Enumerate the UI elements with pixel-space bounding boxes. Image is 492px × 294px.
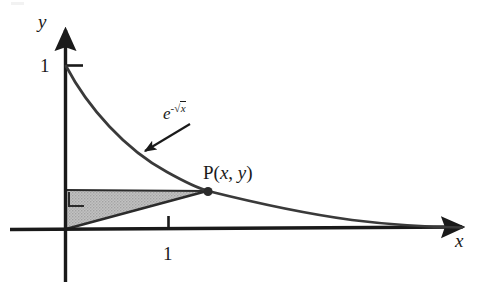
point-name: P	[203, 162, 214, 183]
curve-label-arrow	[145, 124, 190, 151]
x-axis	[10, 227, 462, 230]
curve-equation-label: e-√x	[163, 103, 186, 122]
x-tick-label-one: 1	[163, 244, 173, 263]
y-tick-label-one: 1	[40, 56, 50, 75]
point-comma: ,	[228, 162, 238, 183]
curve-label-exponent: -√x	[171, 101, 187, 114]
triangle-top-edge	[66, 190, 207, 191]
curve-label-base: e	[163, 104, 171, 123]
point-p-marker	[203, 187, 212, 196]
curve-label-radicand: x	[180, 101, 186, 114]
point-p-label: P(x, y)	[203, 163, 253, 182]
close-paren: )	[246, 162, 252, 183]
graph-canvas	[0, 0, 492, 294]
x-axis-label: x	[455, 231, 463, 250]
y-axis-label: y	[38, 12, 46, 31]
